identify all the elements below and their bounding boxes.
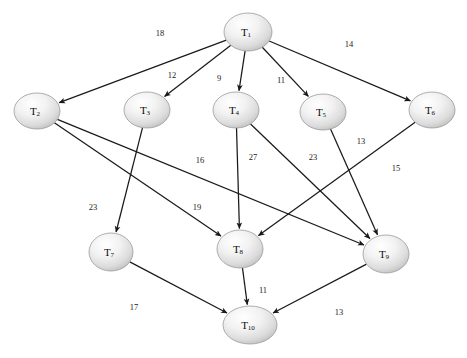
- edge-weight-t4-t8: 27: [249, 152, 258, 162]
- node-label-sub-t10: 10: [248, 324, 256, 332]
- edge-weight-t1-t5: 11: [277, 75, 285, 85]
- node-t8[interactable]: T8: [217, 230, 263, 268]
- edge-t2-to-t8: [54, 123, 221, 236]
- nodes-layer: T1T2T3T4T5T6T7T8T9T10: [14, 13, 455, 344]
- edge-weight-t5-t9: 13: [357, 136, 366, 146]
- edge-t4-to-t9: [251, 124, 370, 239]
- node-label-sub-t6: 6: [432, 109, 436, 117]
- node-t9[interactable]: T9: [363, 235, 409, 273]
- edge-t5-to-t9: [331, 129, 378, 235]
- node-t5[interactable]: T5: [300, 94, 346, 130]
- node-t2[interactable]: T2: [14, 93, 60, 129]
- node-t7[interactable]: T7: [89, 233, 133, 271]
- node-t10[interactable]: T10: [223, 306, 277, 344]
- node-t3[interactable]: T3: [124, 92, 170, 128]
- edge-weight-t2-t9: 16: [196, 155, 205, 165]
- node-label-sub-t2: 2: [37, 110, 41, 118]
- node-t4[interactable]: T4: [213, 92, 259, 128]
- node-label-sub-t4: 4: [236, 109, 240, 117]
- edge-t7-to-t10: [130, 262, 227, 313]
- edge-weights-layer: 18129111416192327231315171113: [89, 28, 401, 317]
- edge-weight-t4-t9: 23: [309, 152, 318, 162]
- node-label-sub-t1: 1: [248, 31, 252, 39]
- edge-weight-t9-t10: 13: [335, 307, 344, 317]
- edge-t9-to-t10: [273, 264, 367, 313]
- graph-diagram: T1T2T3T4T5T6T7T8T9T10 181291114161923272…: [0, 0, 467, 358]
- edge-weight-t6-t8: 15: [392, 163, 401, 173]
- edge-weight-t7-t10: 17: [130, 302, 139, 312]
- edge-t8-to-t10: [242, 268, 247, 305]
- node-label-sub-t9: 9: [386, 253, 390, 261]
- edge-t1-to-t6: [269, 41, 410, 101]
- node-t6[interactable]: T6: [409, 92, 455, 128]
- node-label-sub-t7: 7: [111, 251, 115, 259]
- edge-t2-to-t9: [57, 119, 364, 245]
- graph-canvas: T1T2T3T4T5T6T7T8T9T10 181291114161923272…: [0, 0, 467, 358]
- edge-weight-t2-t8: 19: [193, 202, 202, 212]
- node-t1[interactable]: T1: [224, 13, 272, 51]
- edge-weight-t1-t2: 18: [156, 28, 165, 38]
- edge-t6-to-t8: [259, 122, 416, 235]
- edge-t1-to-t4: [239, 51, 245, 91]
- node-label-sub-t8: 8: [240, 248, 244, 256]
- edge-weight-t1-t6: 14: [345, 39, 354, 49]
- edges-layer: [54, 40, 415, 313]
- edge-weight-t3-t7: 23: [89, 202, 98, 212]
- node-label-sub-t3: 3: [147, 109, 151, 117]
- edge-weight-t8-t10: 11: [259, 285, 267, 295]
- node-label-sub-t5: 5: [323, 111, 327, 119]
- edge-t4-to-t8: [237, 128, 240, 229]
- edge-weight-t1-t4: 9: [217, 73, 221, 83]
- edge-weight-t1-t3: 12: [168, 70, 177, 80]
